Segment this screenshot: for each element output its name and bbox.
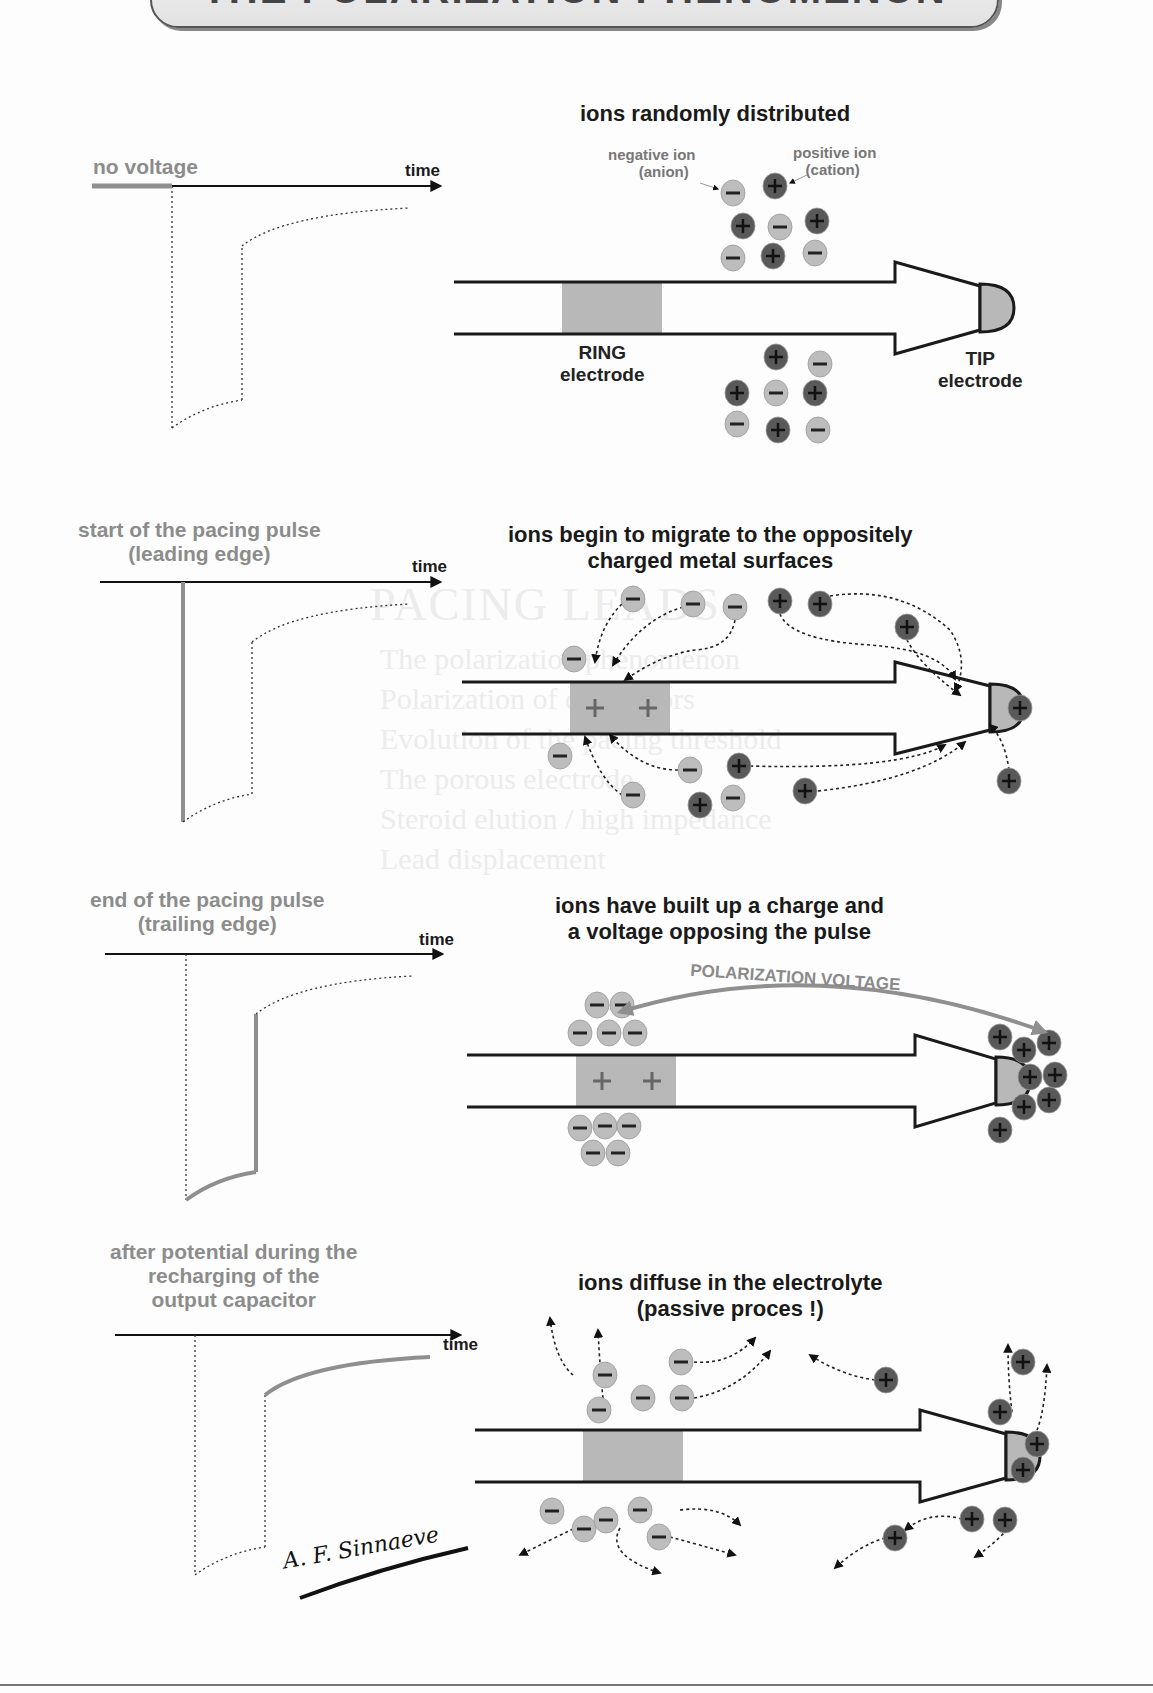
lead-body-outline [462,662,990,754]
cation-icon [874,1367,898,1393]
cation-icon [803,380,827,406]
anion-icon [562,646,586,672]
cation-icon [993,1507,1017,1533]
state-label-trailing-edge: end of the pacing pulse (trailing edge) [90,888,325,936]
anion-icon [593,1113,617,1139]
anion-icon [621,586,645,612]
time-axis-label: time [405,161,440,181]
ring-electrode [583,1430,683,1482]
migration-path [595,604,622,662]
anion-icon [631,1385,655,1411]
cation-icon [1012,1037,1036,1063]
anion-icon [572,1516,596,1542]
anion-icon [721,245,745,271]
time-axis-label: time [412,557,447,577]
cation-icon [1011,1349,1035,1375]
heading-line: a voltage opposing the pulse [555,919,884,945]
cation-icon [1025,1431,1049,1457]
cation-icon [766,417,790,443]
anion-icon [597,1020,621,1046]
anion-icon [548,743,572,769]
state-label-line: recharging of the [110,1264,357,1288]
cation-icon [988,1024,1012,1050]
diffusion-path [835,1538,885,1568]
diffusion-path [520,1529,573,1555]
cation-icon [997,768,1021,794]
cation-icon [768,588,792,614]
legend-positive-ion-label: positive ion [793,144,876,161]
diffusion-path [694,1351,770,1398]
migration-path [610,735,678,770]
anion-icon [594,1507,618,1533]
cation-icon [763,173,787,199]
pulse-highlight-droop [186,1172,256,1200]
diffusion-path [670,1537,735,1555]
cation-icon [1018,1064,1042,1090]
cation-icon [725,380,749,406]
cation-icon [1037,1087,1061,1113]
anion-icon [647,1524,671,1550]
legend-cation-label: (cation) [789,161,876,178]
anion-icon [540,1498,564,1524]
anion-icon [621,782,645,808]
diffusion-path [694,1338,755,1362]
panel-heading: ions begin to migrate to the oppositely … [508,522,913,574]
state-label-no-voltage: no voltage [93,155,198,179]
anion-icon [723,594,747,620]
anion-icon [721,785,745,811]
anion-icon [587,1397,611,1423]
migration-path [585,737,622,795]
state-label-line: (leading edge) [78,542,321,566]
heading-line: ions diffuse in the electrolyte [578,1270,882,1296]
migration-path [625,620,735,680]
anion-icon [764,380,788,406]
anion-icon [568,1115,592,1141]
heading-line: (passive proces !) [578,1296,882,1322]
lead-panel-4 [475,1410,1040,1502]
anion-icon [581,1140,605,1166]
state-label-after-potential: after potential during the recharging of… [110,1240,357,1312]
migration-path [818,742,965,791]
panel-heading: ions have built up a charge and a voltag… [555,893,884,945]
state-label-line: (trailing edge) [90,912,325,936]
diffusion-path [680,1509,740,1525]
legend-pointer [700,183,718,189]
legend-negative-ion-label: negative ion [608,146,696,163]
diffusion-path [550,1318,573,1375]
state-label-line: end of the pacing pulse [90,888,325,912]
anion-icon [803,240,827,266]
anion-icon [669,1349,693,1375]
state-label-leading-edge: start of the pacing pulse (leading edge) [78,518,321,566]
pulse-outline-droop [195,1547,265,1575]
heading-line: ions begin to migrate to the oppositely [508,522,913,548]
panel-heading: ions diffuse in the electrolyte (passive… [578,1270,882,1322]
tip-label-line: TIP [938,348,1022,370]
cation-icon [793,778,817,804]
pulse-highlight-rec [265,1357,430,1395]
cation-icon [1012,1094,1036,1120]
cation-icon [988,1117,1012,1143]
anion-icon [617,1113,641,1139]
anion-icon [721,180,745,206]
anion-icon [628,1497,652,1523]
diffusion-path [905,1516,962,1530]
ring-electrode-label: RING electrode [560,342,644,386]
pulse-outline-rec [256,976,412,1014]
anion-icon [593,1362,617,1388]
anion-icon [623,1020,647,1046]
state-label-line: start of the pacing pulse [78,518,321,542]
cation-icon [1037,1030,1061,1056]
legend-positive-ion: positive ion (cation) [793,144,876,178]
pulse-outline-droop [183,794,252,822]
pulse-outline-rec [242,208,410,246]
anion-icon [725,411,749,437]
anion-icon [610,992,634,1018]
pulse-outline-rec [252,604,410,642]
cation-icon [988,1399,1012,1425]
polarization-voltage-arrow [620,985,1045,1032]
time-axis-label: time [443,1335,478,1355]
lead-panel-2 [462,662,1024,754]
anion-icon [670,1385,694,1411]
cation-icon [805,208,829,234]
cation-icon [1008,695,1032,721]
